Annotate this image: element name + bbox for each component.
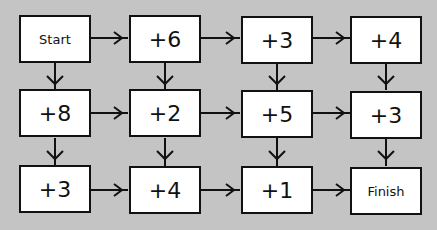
step-box: +2 [129,89,201,137]
step-box: +3 [19,165,91,213]
step-box: +8 [19,89,91,137]
step-box: +6 [129,15,201,63]
step-box: +4 [350,16,422,64]
step-box: +4 [129,166,201,214]
start-box: Start [19,15,91,63]
step-box: +5 [241,90,313,138]
finish-box: Finish [350,167,422,215]
step-box: +3 [241,16,313,64]
step-box: +3 [350,91,422,139]
step-box: +1 [241,166,313,214]
